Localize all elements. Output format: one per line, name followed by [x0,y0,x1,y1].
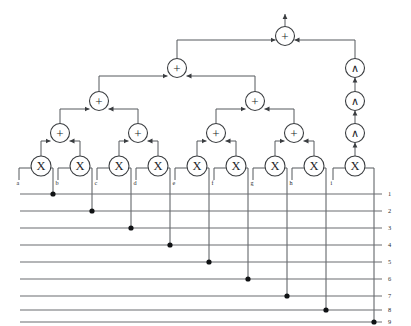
junction-dot [371,319,376,324]
circuit-diagram-root: XXXXXXXXX++++++++∧∧∧ abcdefghi123456789 [0,0,411,326]
multiplier-node-glyph: X [270,159,279,173]
adder-node-glyph: + [290,126,297,141]
adder-node[interactable]: + [90,92,109,111]
wedge-node[interactable]: ∧ [346,59,365,78]
input-label-b: b [56,179,59,186]
input-label-h: h [290,179,294,186]
multiplier-node[interactable]: X [345,156,365,176]
adder-node[interactable]: + [285,124,304,143]
junction-dot [206,259,211,264]
adder-node-glyph: + [281,29,288,44]
junction-dot [323,307,328,312]
output-line-number: 7 [388,292,392,299]
adder-node[interactable]: + [276,27,295,46]
multiplier-node[interactable]: X [31,156,51,176]
adder-node-glyph: + [56,126,63,141]
adder-node[interactable]: + [168,59,187,78]
multiplier-node-glyph: X [192,159,201,173]
adder-node-glyph: + [251,94,258,109]
wedge-node[interactable]: ∧ [346,124,365,143]
multiplier-node-glyph: X [36,159,45,173]
output-line-number: 6 [388,275,391,282]
multiplier-node-glyph: X [153,159,162,173]
wedge-node-glyph: ∧ [351,127,359,139]
multiplier-node-glyph: X [231,159,240,173]
multiplier-node-glyph: X [114,159,123,173]
adder-node[interactable]: + [51,124,70,143]
circuit-diagram-svg: XXXXXXXXX++++++++∧∧∧ abcdefghi123456789 [0,0,411,326]
junction-dot [50,191,55,196]
output-line-number: 1 [388,190,391,197]
adder-node-glyph: + [95,94,102,109]
multiplier-node[interactable]: X [226,156,246,176]
multiplier-node[interactable]: X [187,156,207,176]
junction-dot [89,208,94,213]
multiplier-node[interactable]: X [304,156,324,176]
multiplier-node[interactable]: X [70,156,90,176]
multiplier-node-glyph: X [350,159,359,173]
input-label-c: c [95,179,98,186]
input-label-e: e [173,179,176,186]
adder-node[interactable]: + [246,92,265,111]
multiplier-node-glyph: X [309,159,318,173]
adder-node-glyph: + [173,61,180,76]
adder-node[interactable]: + [129,124,148,143]
input-label-d: d [134,179,138,186]
adder-node-glyph: + [134,126,141,141]
adder-node[interactable]: + [207,124,226,143]
output-line-number: 4 [388,241,392,248]
wedge-node-glyph: ∧ [351,62,359,74]
output-line-number: 3 [388,224,391,231]
junction-dot [128,225,133,230]
wedge-node[interactable]: ∧ [346,92,365,111]
junction-dot [167,242,172,247]
node-layer: XXXXXXXXX++++++++∧∧∧ [31,27,365,177]
junction-dot [245,276,250,281]
adder-node-glyph: + [212,126,219,141]
input-label-i: i [331,179,333,186]
label-layer: abcdefghi123456789 [17,179,393,326]
output-line-number: 8 [388,306,391,313]
multiplier-node[interactable]: X [148,156,168,176]
multiplier-node[interactable]: X [265,156,285,176]
multiplier-node[interactable]: X [109,156,129,176]
junction-dot [284,293,289,298]
multiplier-node-glyph: X [75,159,84,173]
output-line-number: 2 [388,207,391,214]
input-label-a: a [17,179,20,186]
input-label-g: g [251,179,254,186]
output-line-number: 9 [388,318,391,325]
output-line-number: 5 [388,258,391,265]
wedge-node-glyph: ∧ [351,95,359,107]
